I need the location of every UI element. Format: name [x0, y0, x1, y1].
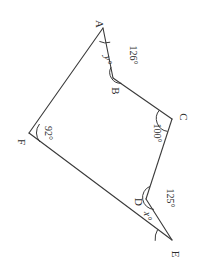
- angle-label-E-unknown: x°: [142, 211, 153, 220]
- vertex-label-A: A: [94, 20, 106, 28]
- angle-label-F: 92°: [43, 126, 54, 140]
- edge-AB: [103, 28, 113, 78]
- vertex-label-E: E: [170, 251, 182, 258]
- vertex-label-F: F: [16, 139, 28, 145]
- geometry-figure: A B C D E F 126° 100° 125° 92° y° x°: [0, 0, 200, 263]
- angle-arc-E: [155, 230, 158, 241]
- vertex-label-D: D: [133, 198, 145, 206]
- angle-label-B: 126°: [128, 46, 139, 65]
- vertex-label-C: C: [178, 113, 190, 120]
- vertex-label-B: B: [110, 87, 122, 94]
- angle-label-D: 125°: [165, 189, 176, 208]
- angle-label-C: 100°: [152, 124, 163, 143]
- angle-label-A-unknown: y°: [102, 55, 113, 64]
- edge-FA: [29, 28, 103, 133]
- angle-arc-A: [99, 41, 110, 43]
- edge-BC: [113, 78, 172, 119]
